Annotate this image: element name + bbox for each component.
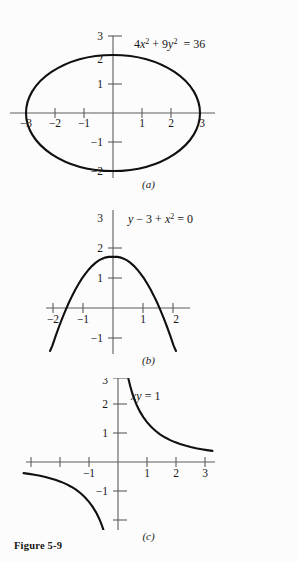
panel-b-xlabel--2: −2 <box>47 313 59 325</box>
panel-c-ylabel--1: −1 <box>96 485 108 497</box>
figure-5-9: −3 −2 −1 1 2 3 3 2 1 −1 −2 4x2 + 9y2 = 3… <box>0 0 297 562</box>
figure-caption: Figure 5-9 <box>14 540 62 551</box>
panel-c-xlabel-1: 1 <box>144 467 150 479</box>
panel-b-ylabel-2: 2 <box>97 242 103 254</box>
panel-b-parabola-plot: −2 −1 1 2 3 2 1 −1 y − 3 + x2 = 0 (b) <box>0 196 297 354</box>
panel-b-xlabel--1: −1 <box>77 313 89 325</box>
panel-a-label: (a) <box>0 178 297 190</box>
panel-a-xlabel--1: −1 <box>78 117 90 129</box>
panel-c-xlabel-2: 2 <box>173 467 179 479</box>
panel-b-xlabel-2: 2 <box>173 313 179 325</box>
panel-a-xlabel--2: −2 <box>49 117 61 129</box>
panel-a-xlabel-1: 1 <box>139 117 145 129</box>
panel-a-svg: −3 −2 −1 1 2 3 3 2 1 −1 −2 4x2 + 9y2 = 3… <box>0 0 297 178</box>
panel-b-ylabel--1: −1 <box>91 332 103 344</box>
panel-a-ylabel-1: 1 <box>97 78 103 90</box>
panel-c-xlabel-3: 3 <box>202 467 208 479</box>
panel-a-equation: 4x2 + 9y2 = 36 <box>134 37 205 51</box>
panel-a-ellipse-plot: −3 −2 −1 1 2 3 3 2 1 −1 −2 4x2 + 9y2 = 3… <box>0 0 297 178</box>
panel-b-label: (b) <box>0 354 297 366</box>
panel-b-ylabel-1: 1 <box>97 272 103 284</box>
panel-a-ylabel--1: −1 <box>91 136 103 148</box>
panel-c-hyperbola-branch-negative <box>24 473 106 530</box>
panel-b-xlabel-1: 1 <box>140 313 146 325</box>
panel-c-svg: −1 1 2 3 3 2 1 −1 xy = 1 <box>0 378 297 530</box>
panel-c-ylabel-1: 1 <box>102 427 108 439</box>
panel-a-ylabel-3: 3 <box>97 30 103 42</box>
panel-c-hyperbola-plot: −1 1 2 3 3 2 1 −1 xy = 1 (c) <box>0 378 297 530</box>
panel-c-ylabel-2: 2 <box>102 398 108 410</box>
panel-b-ylabel-3: 3 <box>97 212 103 224</box>
panel-b-equation: y − 3 + x2 = 0 <box>127 212 193 226</box>
panel-b-svg: −2 −1 1 2 3 2 1 −1 y − 3 + x2 = 0 <box>0 196 297 354</box>
panel-a-xlabel-2: 2 <box>168 117 174 129</box>
panel-c-equation: xy = 1 <box>130 389 160 403</box>
panel-c-ylabel-3: 3 <box>102 378 108 386</box>
panel-c-xlabel--1: −1 <box>83 467 95 479</box>
